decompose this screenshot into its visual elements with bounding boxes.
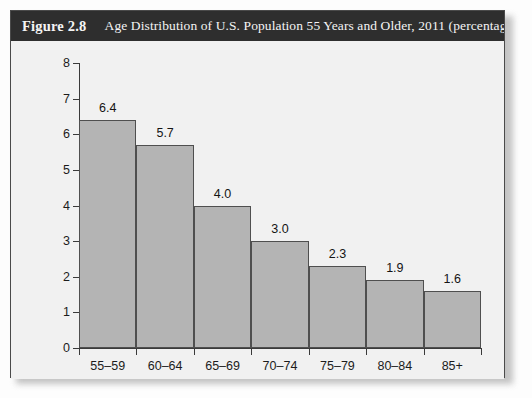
y-axis-tick-label: 2 [63,270,70,284]
x-axis-tick-label: 55–59 [90,359,125,373]
x-axis-tick [136,348,137,355]
figure-caption: Age Distribution of U.S. Population 55 Y… [105,18,504,34]
bar-value-label: 3.0 [271,222,288,236]
figure-root: Figure 2.8 Age Distribution of U.S. Popu… [0,0,532,398]
y-axis-tick-label: 4 [63,199,70,213]
y-axis-tick-label: 6 [63,127,70,141]
x-axis-tick-label: 60–64 [148,359,183,373]
bar [309,266,366,348]
x-axis-tick [194,348,195,355]
x-axis-tick [481,348,482,355]
y-axis-tick [73,63,79,64]
bar [424,291,481,348]
bar-value-label: 1.9 [386,261,403,275]
bar-value-label: 6.4 [99,101,116,115]
y-axis-tick-label: 1 [63,305,70,319]
bar-value-label: 2.3 [329,247,346,261]
plot-area: 0123456786.455–595.760–644.065–693.070–7… [79,63,481,348]
x-axis-tick-label: 75–79 [320,359,355,373]
x-axis-tick-label: 85+ [442,359,463,373]
x-axis-tick-label: 70–74 [263,359,298,373]
x-axis-tick-label: 80–84 [377,359,412,373]
bar [251,241,308,348]
bar [79,120,136,348]
bar-value-label: 5.7 [156,126,173,140]
figure-card: Figure 2.8 Age Distribution of U.S. Popu… [10,10,505,378]
x-axis-tick [424,348,425,355]
x-axis-tick [79,348,80,355]
bar [366,280,423,348]
bar [136,145,193,348]
bar-value-label: 1.6 [444,272,461,286]
y-axis-tick-label: 8 [63,56,70,70]
y-axis-tick-label: 7 [63,92,70,106]
y-axis-tick-label: 0 [63,341,70,355]
bar-value-label: 4.0 [214,187,231,201]
y-axis-tick-label: 3 [63,234,70,248]
bar [194,206,251,349]
y-axis-tick-label: 5 [63,163,70,177]
x-axis-tick-label: 65–69 [205,359,240,373]
x-axis-line [79,348,481,349]
y-axis-tick [73,99,79,100]
x-axis-tick [251,348,252,355]
plot-body: 0123456786.455–595.760–644.065–693.070–7… [11,41,504,379]
figure-number: Figure 2.8 [22,18,87,35]
x-axis-tick [366,348,367,355]
x-axis-tick [309,348,310,355]
figure-header: Figure 2.8 Age Distribution of U.S. Popu… [11,11,504,41]
